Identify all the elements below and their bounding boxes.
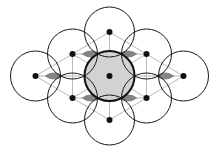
- dot-upper-right: [144, 51, 150, 57]
- dot-left: [33, 73, 39, 79]
- dot-upper-left: [70, 51, 76, 57]
- lattice-diagram-canvas: [0, 0, 218, 155]
- dot-right: [181, 73, 187, 79]
- dot-lower-left: [70, 95, 76, 101]
- dot-lower-right: [144, 95, 150, 101]
- dot-bottom: [107, 117, 113, 123]
- dot-top: [107, 29, 113, 35]
- lattice-figure: [0, 0, 218, 155]
- dot-center: [107, 73, 113, 79]
